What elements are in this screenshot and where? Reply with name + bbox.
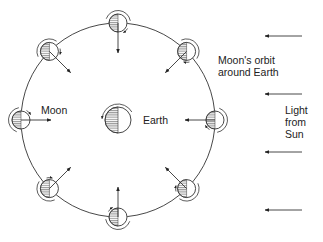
orbit-label: Moon's orbit around Earth <box>218 54 279 78</box>
moon-position-1 <box>106 10 130 53</box>
light-label-line2: from <box>285 116 308 128</box>
earth-night-side <box>105 107 118 133</box>
moon-facing-arrow-icon <box>49 51 70 72</box>
light-label-line1: Light <box>285 104 308 116</box>
moon-label: Moon <box>41 104 67 116</box>
moon-position-4 <box>165 167 199 201</box>
light-label: Light from Sun <box>285 104 308 140</box>
orbit-label-line2: around Earth <box>218 66 279 78</box>
earth-label: Earth <box>143 114 168 126</box>
earth <box>102 104 132 133</box>
moon-position-3 <box>185 108 228 132</box>
moon-facing-arrow-icon <box>165 167 186 188</box>
moon-position-2 <box>165 39 199 73</box>
moon-position-6 <box>37 167 71 201</box>
orbit-label-line1: Moon's orbit <box>218 54 279 66</box>
moon-position-5 <box>106 187 130 230</box>
moon-facing-arrow-icon <box>165 51 186 72</box>
light-label-line3: Sun <box>285 128 308 140</box>
moon-position-8 <box>37 39 71 73</box>
moon-facing-arrow-icon <box>49 167 70 188</box>
